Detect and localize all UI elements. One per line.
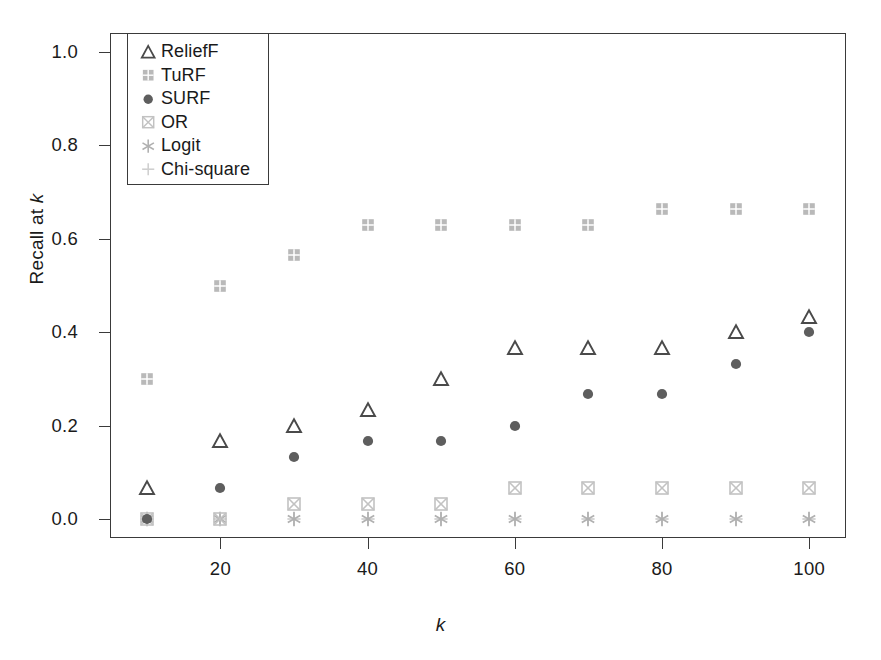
- x-tick-label: 100: [769, 558, 849, 580]
- legend-marker-asterisk-icon: [135, 135, 161, 157]
- x-axis-title: k: [0, 614, 881, 636]
- x-tick-mark: [662, 538, 663, 549]
- legend-item-relieff: ReliefF: [128, 40, 268, 64]
- legend-item-chi-square: Chi-square: [128, 158, 268, 182]
- y-axis-title-variable: k: [26, 194, 47, 204]
- y-tick-label: 0.4: [22, 321, 78, 343]
- y-tick-label: 0.6: [22, 228, 78, 250]
- legend-marker-plus-icon: [135, 158, 161, 180]
- legend: ReliefFTuRFSURFORLogitChi-square: [127, 33, 269, 185]
- legend-marker-filled-circle-icon: [135, 88, 161, 110]
- legend-item-turf: TuRF: [128, 64, 268, 88]
- y-tick-mark: [99, 426, 110, 427]
- legend-label: SURF: [161, 88, 210, 109]
- legend-marker-filled-square-light-icon: [135, 64, 161, 86]
- x-tick-mark: [809, 538, 810, 549]
- x-tick-label: 20: [180, 558, 260, 580]
- x-tick-mark: [515, 538, 516, 549]
- y-tick-mark: [99, 52, 110, 53]
- legend-item-surf: SURF: [128, 87, 268, 111]
- y-tick-mark: [99, 332, 110, 333]
- x-tick-label: 60: [475, 558, 555, 580]
- x-tick-mark: [368, 538, 369, 549]
- legend-label: TuRF: [161, 65, 206, 86]
- chart-figure: Recall at k k 0.00.20.40.60.81.0 2040608…: [0, 0, 881, 660]
- x-axis-title-variable: k: [436, 614, 446, 635]
- y-tick-label: 0.2: [22, 415, 78, 437]
- y-tick-mark: [99, 145, 110, 146]
- x-tick-label: 80: [622, 558, 702, 580]
- legend-label: ReliefF: [161, 41, 219, 62]
- y-tick-label: 0.0: [22, 508, 78, 530]
- x-tick-label: 40: [328, 558, 408, 580]
- legend-label: OR: [161, 112, 188, 133]
- legend-label: Logit: [161, 135, 201, 156]
- legend-label: Chi-square: [161, 159, 250, 180]
- y-tick-label: 1.0: [22, 41, 78, 63]
- legend-item-logit: Logit: [128, 134, 268, 158]
- y-tick-mark: [99, 519, 110, 520]
- y-tick-label: 0.8: [22, 134, 78, 156]
- legend-marker-square-with-x-icon: [135, 111, 161, 133]
- legend-marker-open-triangle-icon: [135, 41, 161, 63]
- y-tick-mark: [99, 239, 110, 240]
- legend-item-or: OR: [128, 111, 268, 135]
- x-tick-mark: [220, 538, 221, 549]
